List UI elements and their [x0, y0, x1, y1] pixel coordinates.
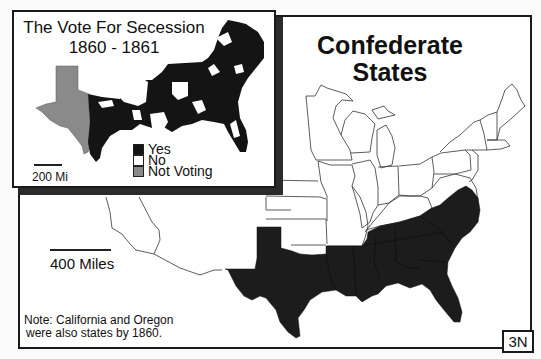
main-scale-bar: 400 Miles [50, 249, 114, 272]
legend-item-yes: Yes [133, 144, 213, 155]
scale-bar-line [50, 249, 111, 251]
map-id-badge: 3N [502, 330, 534, 353]
california-east-border [139, 197, 160, 254]
missouri-outline [318, 161, 368, 246]
title-line-2: States [300, 59, 480, 86]
note-line-2: were also states by 1860. [24, 327, 173, 340]
swatch-yes [133, 144, 144, 155]
map-note: Note: California and Oregon were also st… [24, 314, 173, 340]
inset-title-line-2: 1860 - 1861 [14, 38, 214, 58]
scale-bar-line [34, 164, 62, 166]
inset-scale-bar: 200 Mi [32, 164, 68, 184]
california-outline [106, 197, 222, 275]
title-line-1: Confederate [300, 32, 480, 59]
secession-vote-inset: The Vote For Secession 1860 - 1861 Yes N… [12, 10, 276, 188]
swatch-not-voting [133, 166, 144, 177]
confederate-states-shape [225, 186, 480, 338]
inset-title-line-1: The Vote For Secession [14, 18, 214, 38]
legend-item-not-voting: Not Voting [133, 166, 213, 177]
scale-label: 400 Miles [50, 255, 114, 272]
legend-label: Not Voting [148, 166, 213, 177]
inset-legend: Yes No Not Voting [133, 144, 213, 177]
scale-label: 200 Mi [32, 170, 68, 184]
inset-title: The Vote For Secession 1860 - 1861 [14, 18, 214, 58]
main-map-title: Confederate States [300, 32, 480, 86]
swatch-no [133, 155, 144, 166]
